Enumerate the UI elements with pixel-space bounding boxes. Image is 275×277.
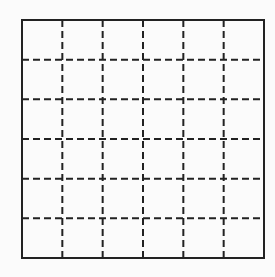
- grid-diagram: [0, 0, 275, 277]
